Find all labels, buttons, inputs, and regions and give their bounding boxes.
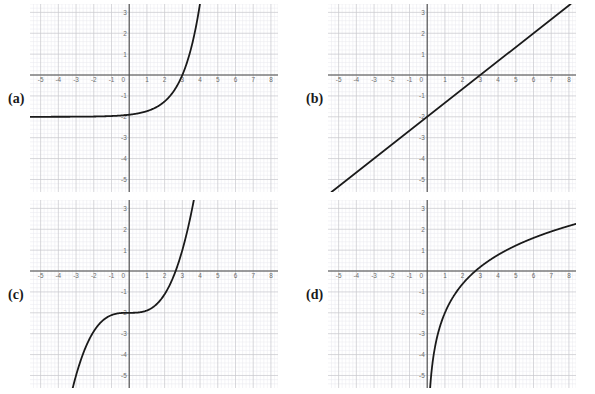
curve-b (332, 4, 571, 192)
y-tick-label: 1 (421, 247, 425, 254)
x-tick-label: 3 (181, 272, 185, 279)
x-tick-label: -2 (91, 76, 97, 83)
x-tick-label: -4 (55, 272, 61, 279)
x-tick-label: 7 (251, 76, 255, 83)
x-tick-label: -5 (38, 272, 44, 279)
minor-gridlines (30, 4, 278, 192)
x-tick-label: 1 (145, 272, 149, 279)
x-tick-label: -5 (336, 76, 342, 83)
x-tick-label: 6 (532, 76, 536, 83)
x-tick-label: -1 (407, 76, 413, 83)
y-tick-label: -4 (121, 155, 127, 162)
x-tick-label: 5 (514, 272, 518, 279)
x-tick-label: 8 (567, 76, 571, 83)
x-tick-label: -1 (407, 272, 413, 279)
y-tick-label: 1 (123, 247, 127, 254)
x-tick-label: -3 (73, 76, 79, 83)
y-tick-label: -3 (419, 134, 425, 141)
x-tick-label: 3 (479, 76, 483, 83)
y-tick-label: -1 (121, 288, 127, 295)
x-tick-label: -5 (38, 76, 44, 83)
plot-panel-a: -5-4-3-2-1012345678321-1-2-3-4-5 (30, 4, 278, 192)
y-tick-label: -3 (419, 330, 425, 337)
x-tick-label: 2 (461, 76, 465, 83)
x-tick-label: -2 (389, 76, 395, 83)
x-tick-label: -2 (91, 272, 97, 279)
x-tick-label: 2 (163, 272, 167, 279)
x-tick-label: 4 (198, 76, 202, 83)
x-tick-label: -5 (336, 272, 342, 279)
x-tick-label: 0 (121, 76, 125, 83)
x-tick-label: 1 (443, 272, 447, 279)
y-tick-label: -1 (419, 92, 425, 99)
x-tick-label: 7 (251, 272, 255, 279)
x-tick-label: 1 (443, 76, 447, 83)
x-tick-label: -2 (389, 272, 395, 279)
x-tick-label: 6 (234, 272, 238, 279)
x-tick-label: 6 (234, 76, 238, 83)
panel-label-d: (d) (306, 288, 323, 302)
x-tick-label: -1 (109, 272, 115, 279)
figure-sheet: (a)-5-4-3-2-1012345678321-1-2-3-4-5(b)-5… (0, 0, 595, 394)
plot-panel-b: -5-4-3-2-1012345678321-1-2-3-4-5 (328, 4, 576, 192)
plot-panel-c: -5-4-3-2-1012345678321-1-2-3-4-5 (30, 200, 278, 388)
x-tick-label: 3 (479, 272, 483, 279)
y-tick-label: 3 (421, 9, 425, 16)
x-tick-label: -1 (109, 76, 115, 83)
curve-d (430, 224, 577, 388)
y-tick-label: -4 (419, 351, 425, 358)
minor-gridlines (30, 200, 278, 388)
x-tick-label: 2 (163, 76, 167, 83)
y-tick-label: 2 (123, 226, 127, 233)
x-tick-label: -3 (73, 272, 79, 279)
x-tick-label: 8 (269, 272, 273, 279)
y-tick-label: -1 (419, 288, 425, 295)
x-tick-label: 8 (567, 272, 571, 279)
x-tick-label: 0 (419, 272, 423, 279)
y-tick-label: -3 (121, 134, 127, 141)
x-tick-label: -4 (55, 76, 61, 83)
x-tick-label: 0 (419, 76, 423, 83)
plot-panel-d: -5-4-3-2-1012345678321-1-2-3-4-5 (328, 200, 576, 388)
y-tick-label: -5 (419, 176, 425, 183)
x-tick-label: 7 (549, 272, 553, 279)
x-tick-label: 4 (496, 272, 500, 279)
x-tick-label: 1 (145, 76, 149, 83)
panel-label-c: (c) (8, 288, 24, 302)
x-tick-label: 4 (496, 76, 500, 83)
minor-gridlines (328, 200, 576, 388)
panel-label-a: (a) (8, 92, 24, 106)
y-tick-label: 2 (421, 226, 425, 233)
y-tick-label: -4 (121, 351, 127, 358)
x-tick-label: 5 (514, 76, 518, 83)
y-tick-label: 3 (123, 9, 127, 16)
y-tick-label: 2 (421, 30, 425, 37)
x-tick-label: 2 (461, 272, 465, 279)
y-tick-label: 2 (123, 30, 127, 37)
y-tick-label: -1 (121, 92, 127, 99)
x-tick-label: 7 (549, 76, 553, 83)
y-tick-label: -5 (121, 176, 127, 183)
x-tick-label: 4 (198, 272, 202, 279)
x-tick-label: 6 (532, 272, 536, 279)
x-tick-label: -3 (371, 272, 377, 279)
y-tick-label: -4 (419, 155, 425, 162)
y-tick-label: -2 (419, 309, 425, 316)
x-tick-label: 8 (269, 76, 273, 83)
y-tick-label: -5 (121, 372, 127, 379)
y-tick-label: 3 (421, 205, 425, 212)
panel-label-b: (b) (306, 92, 323, 106)
y-tick-label: 1 (123, 51, 127, 58)
y-tick-label: 3 (123, 205, 127, 212)
y-tick-label: -5 (419, 372, 425, 379)
x-tick-label: -4 (353, 272, 359, 279)
y-tick-label: -3 (121, 330, 127, 337)
y-tick-label: 1 (421, 51, 425, 58)
x-tick-label: -4 (353, 76, 359, 83)
x-tick-label: 5 (216, 76, 220, 83)
x-tick-label: 0 (121, 272, 125, 279)
x-tick-label: -3 (371, 76, 377, 83)
x-tick-label: 5 (216, 272, 220, 279)
